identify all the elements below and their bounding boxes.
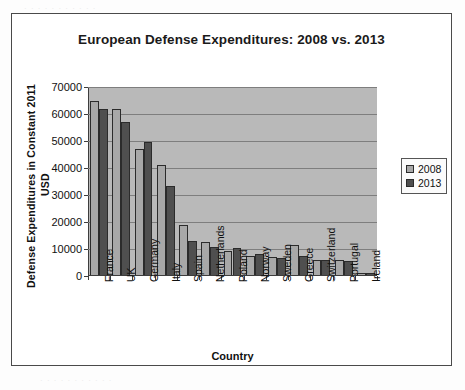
y-axis-tick-label: 70000	[12, 81, 82, 93]
legend-label-2008: 2008	[418, 163, 441, 175]
y-axis-tick-mark	[84, 141, 88, 142]
x-axis-label-portugal: Portugal	[348, 243, 360, 282]
gridline	[88, 168, 377, 169]
legend-item-2013: 2013	[406, 176, 441, 190]
x-axis-label-spain: Spain	[192, 255, 204, 282]
y-axis-tick-label: 60000	[12, 108, 82, 120]
x-axis-label-greece: Greece	[303, 248, 315, 282]
legend-label-2013: 2013	[418, 177, 441, 189]
x-axis-label-switzerland: Switzerland	[325, 228, 337, 282]
gridline	[88, 141, 377, 142]
plot-wrapper: 010000200003000040000500006000070000 Fra…	[88, 87, 377, 276]
page-canvas: · · · · · · · · · · · · · · · · · · · · …	[0, 0, 465, 390]
legend-item-2008: 2008	[406, 162, 441, 176]
y-axis-tick-label: 40000	[12, 162, 82, 174]
y-axis-tick-label: 30000	[12, 189, 82, 201]
x-axis-label-poland: Poland	[237, 249, 249, 282]
y-axis-tick-mark	[84, 114, 88, 115]
background-bleed-text: · · · · · · · · · · ·	[24, 4, 97, 13]
gridline	[88, 195, 377, 196]
x-axis-label-norway: Norway	[259, 246, 271, 282]
y-axis-tick-label: 50000	[12, 135, 82, 147]
gridline	[88, 222, 377, 223]
x-axis-label-uk: UK	[125, 267, 137, 282]
gridline	[88, 114, 377, 115]
chart-figure-frame: European Defense Expenditures: 2008 vs. …	[11, 13, 452, 366]
y-axis-tick-mark	[84, 87, 88, 88]
y-axis-tick-label: 10000	[12, 243, 82, 255]
x-axis-label-italy: Italy	[170, 263, 182, 282]
y-axis-tick-mark	[84, 168, 88, 169]
x-axis-tick-mark	[88, 276, 89, 280]
y-axis-tick-label: 0	[12, 270, 82, 282]
gridline	[88, 87, 377, 88]
chart-legend: 2008 2013	[401, 158, 447, 194]
legend-swatch-icon-2013	[406, 179, 414, 187]
background-bleed-text-bottom: · · · · · · · · · · ·	[40, 376, 113, 385]
x-axis-label-france: France	[103, 249, 115, 282]
x-axis-label-germany: Germany	[148, 239, 160, 282]
y-axis-tick-mark	[84, 195, 88, 196]
bar-germany-2008	[135, 149, 144, 276]
x-axis-label-sweden: Sweden	[281, 244, 293, 282]
y-axis-tick-mark	[84, 222, 88, 223]
legend-swatch-icon-2008	[406, 165, 414, 173]
y-axis-tick-label: 20000	[12, 216, 82, 228]
bar-france-2008	[90, 101, 99, 277]
chart-title: European Defense Expenditures: 2008 vs. …	[12, 32, 451, 47]
x-axis-label-ireland: Ireland	[370, 250, 382, 282]
y-axis-tick-mark	[84, 249, 88, 250]
bar-uk-2013	[121, 122, 130, 276]
x-axis-label-netherlands: Netherlands	[214, 225, 226, 282]
x-axis-title: Country	[88, 350, 377, 362]
